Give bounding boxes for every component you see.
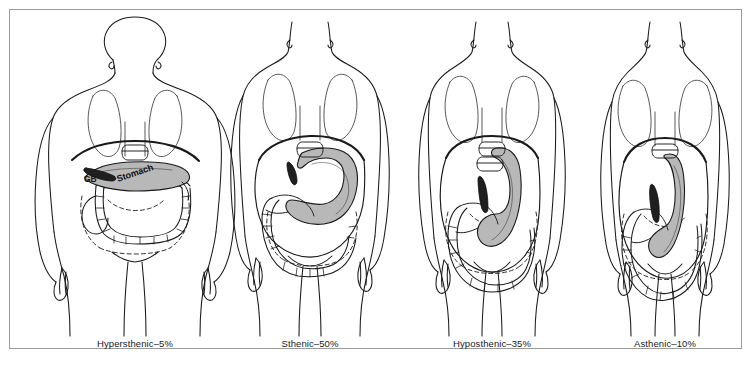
lungs [88, 90, 182, 156]
caption-asthenic: Asthenic–10% [634, 338, 696, 349]
panel-sthenic [231, 22, 390, 336]
vertebra [122, 145, 148, 160]
head-outline [104, 17, 165, 73]
anatomy-drawing: GB Stomach [0, 0, 753, 368]
caption-hypersthenic: Hypersthenic–5% [97, 338, 173, 349]
caption-hyposthenic: Hyposthenic–35% [453, 338, 531, 349]
lungs [618, 80, 712, 146]
lungs [445, 76, 539, 142]
gallbladder-label: GB [84, 174, 97, 184]
panel-hyposthenic [419, 22, 566, 336]
illustration-stage: GB Stomach Hypersthenic–5% Sthenic–50% H… [0, 0, 753, 368]
body-outline [35, 73, 235, 336]
caption-sthenic: Sthenic–50% [281, 338, 338, 349]
stomach-organ [286, 148, 358, 224]
panel-asthenic [601, 22, 730, 336]
gallbladder-organ [478, 176, 488, 212]
body-outline [231, 22, 390, 336]
pelvis-outline [81, 196, 189, 254]
gallbladder-organ [287, 162, 297, 185]
lungs [263, 74, 357, 140]
gallbladder-organ [650, 184, 660, 222]
